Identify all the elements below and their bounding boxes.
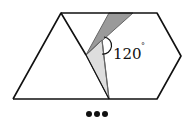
dot-2 [94,111,100,117]
dot-3 [102,111,108,117]
dot-1 [86,111,92,117]
angle-label: 120 [113,45,142,63]
degree-symbol: ° [141,41,145,50]
left-triangle [13,13,86,99]
diagram-svg: 120 ° [0,0,190,123]
folding-diagram: 120 ° [0,0,190,123]
